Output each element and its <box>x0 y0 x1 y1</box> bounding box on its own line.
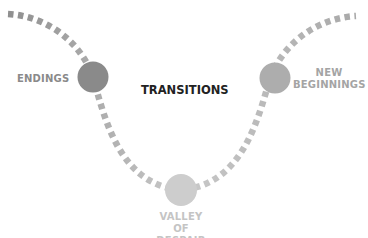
transition-curve <box>0 0 368 238</box>
valley-node <box>165 174 197 206</box>
endings-node <box>78 62 109 93</box>
new-beginnings-label: NEW BEGINNINGS <box>293 67 365 91</box>
valley-label: VALLEY OF DESPAIR <box>150 211 212 238</box>
diagram-title: TRANSITIONS <box>141 83 229 97</box>
transitions-diagram: TRANSITIONS ENDINGS VALLEY OF DESPAIR NE… <box>0 0 368 238</box>
dashed-path <box>8 14 356 190</box>
new-beginnings-node <box>260 63 291 94</box>
endings-label: ENDINGS <box>17 73 69 85</box>
